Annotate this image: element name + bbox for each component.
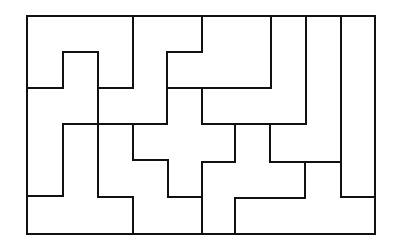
polyomino-puzzle xyxy=(0,0,394,248)
piece-boundaries xyxy=(27,16,375,234)
